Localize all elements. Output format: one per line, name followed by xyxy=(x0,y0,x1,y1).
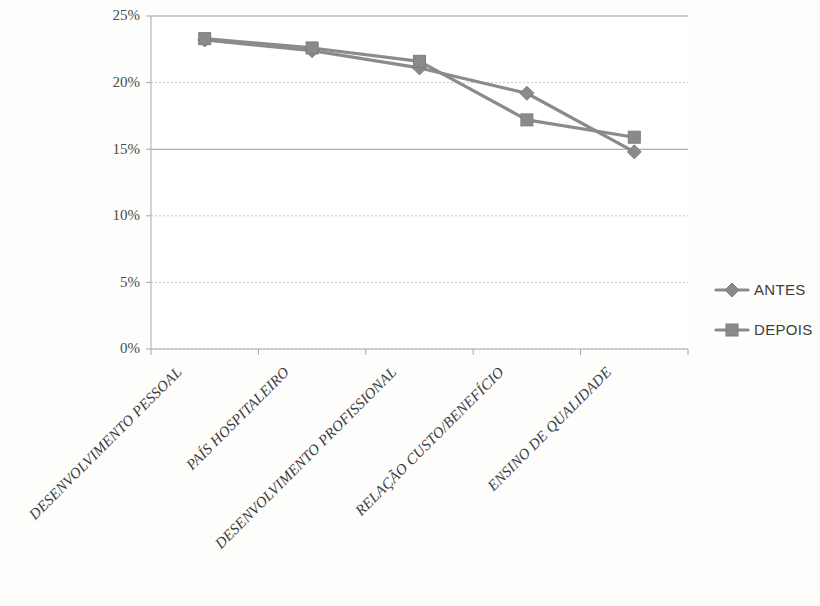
category-label: ENSINO DE QUALIDADE xyxy=(484,364,615,495)
category-label: DESENVOLVIMENTO PESSOAL xyxy=(25,364,185,524)
category-label: DESENVOLVIMENTO PROFISSIONAL xyxy=(211,364,400,553)
legend-label-antes: ANTES xyxy=(754,281,806,298)
marker-square-depois xyxy=(414,55,426,67)
legend-marker-square xyxy=(726,324,738,336)
y-tick-label: 20% xyxy=(113,74,141,90)
y-tick-label: 10% xyxy=(113,207,141,223)
line-chart: 0%5%10%15%20%25% DESENVOLVIMENTO PESSOAL… xyxy=(0,0,820,606)
category-label: PAÍS HOSPITALEIRO xyxy=(182,364,292,474)
legend-marker-diamond xyxy=(725,283,739,297)
legend-label-depois: DEPOIS xyxy=(754,321,812,338)
marker-square-depois xyxy=(628,131,640,143)
marker-square-depois xyxy=(521,114,533,126)
y-tick-label: 5% xyxy=(120,274,140,290)
x-axis-ticks xyxy=(151,349,688,355)
chart-canvas: 0%5%10%15%20%25% DESENVOLVIMENTO PESSOAL… xyxy=(0,0,820,606)
y-tick-label: 25% xyxy=(113,7,141,23)
y-tick-label: 15% xyxy=(113,141,141,157)
marker-square-depois xyxy=(199,33,211,45)
marker-square-depois xyxy=(306,42,318,54)
y-tick-label: 0% xyxy=(120,340,140,356)
chart-legend: ANTESDEPOIS xyxy=(716,281,812,338)
x-axis-category-labels: DESENVOLVIMENTO PESSOALPAÍS HOSPITALEIRO… xyxy=(25,364,614,553)
